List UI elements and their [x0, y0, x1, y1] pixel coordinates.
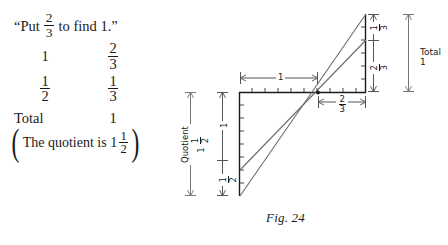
label-right-two-thirds: 23	[370, 62, 388, 74]
row-1-left-numerator: 1	[40, 74, 51, 89]
label-total-value: 1	[420, 57, 426, 67]
sum-table: 1 23 12 13 Total 1	[14, 40, 150, 131]
label-left-one-half-denominator: 2	[228, 176, 238, 183]
row-1-right-numerator: 1	[108, 74, 119, 89]
label-right-one-third-denominator: 3	[379, 24, 389, 31]
table-row: 1 23	[14, 40, 150, 73]
quote-prefix: “Put	[14, 18, 43, 34]
quote-fraction: 23	[44, 11, 54, 40]
label-total-word: Total	[420, 47, 441, 57]
label-right-two-thirds-denominator: 3	[379, 64, 389, 71]
label-right-two-thirds-numerator: 2	[370, 64, 379, 71]
row-1-left-fraction: 12	[40, 74, 51, 105]
quotient-note-text: The quotient is 1	[22, 135, 119, 151]
label-left-one: 1	[219, 121, 229, 130]
label-right-two-thirds-fraction: 23	[370, 64, 388, 71]
quote-fraction-denominator: 3	[44, 25, 54, 40]
label-right-one-third: 13	[370, 22, 388, 34]
label-quotient-whole: 1	[196, 147, 206, 152]
row-1-left: 12	[14, 73, 76, 106]
open-paren: (	[11, 128, 19, 158]
crossing-point-marker	[316, 91, 320, 95]
label-horizontal-one-text: 1	[278, 72, 283, 82]
label-horizontal-two-thirds-numerator: 2	[339, 95, 346, 104]
label-quotient-title: Quotient	[180, 126, 190, 163]
label-horizontal-one: 1	[276, 72, 285, 82]
quotient-note-denominator: 2	[119, 142, 128, 156]
worked-example-block: “Put 23 to find 1.” 1 23 12 13 Total 1 (…	[0, 0, 180, 245]
row-1-right-fraction: 13	[108, 74, 119, 105]
quotient-note-numerator: 1	[119, 130, 128, 143]
label-right-one-third-fraction: 13	[370, 24, 388, 31]
row-0-right-denominator: 3	[108, 56, 119, 72]
row-0-right: 23	[76, 40, 150, 73]
label-quotient-denominator: 2	[200, 137, 210, 144]
row-1-left-denominator: 2	[40, 88, 51, 104]
instruction-quote: “Put 23 to find 1.”	[14, 11, 118, 40]
row-1-right: 13	[76, 73, 150, 106]
row-0-right-numerator: 2	[108, 41, 119, 56]
quote-fraction-numerator: 2	[44, 11, 54, 25]
row-0-left: 1	[14, 40, 76, 73]
label-left-one-text: 1	[219, 123, 229, 128]
label-quotient: Quotient 1 12	[180, 124, 209, 165]
quote-suffix: to find 1.”	[55, 18, 118, 34]
quotient-note: ( The quotient is 112 )	[9, 128, 142, 158]
label-horizontal-two-thirds-fraction: 23	[339, 95, 346, 113]
label-left-one-half-numerator: 1	[219, 176, 228, 183]
table-row: 12 13	[14, 73, 150, 106]
figure-graph-svg	[168, 0, 448, 245]
row-1-right-denominator: 3	[108, 88, 119, 104]
label-quotient-numerator: 1	[191, 137, 200, 144]
label-quotient-value: 1 12	[191, 126, 209, 163]
label-left-one-half-fraction: 12	[219, 176, 237, 183]
label-quotient-fraction: 12	[191, 137, 209, 144]
bracket-total	[403, 14, 414, 92]
label-horizontal-two-thirds: 23	[336, 95, 348, 113]
label-left-one-half: 12	[219, 174, 237, 186]
row-0-right-fraction: 23	[108, 41, 119, 72]
figure-caption: Fig. 24	[266, 210, 305, 226]
close-paren: )	[131, 128, 139, 158]
label-horizontal-two-thirds-denominator: 3	[339, 104, 346, 114]
label-total: Total 1	[418, 47, 448, 67]
label-right-one-third-numerator: 1	[370, 24, 379, 31]
figure-24: 1 23 13 23 Total 1 1 12 Quotient 1 12 Fi…	[168, 0, 448, 245]
quotient-note-fraction: 12	[119, 130, 128, 157]
